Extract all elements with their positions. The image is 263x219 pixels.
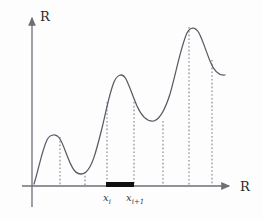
x-i-plus-1-label: xi+1 (126, 192, 144, 206)
dashed-drop-lines (60, 27, 212, 186)
function-partition-figure: R R xi xi+1 (0, 0, 263, 219)
interval-highlight-bar (106, 182, 134, 187)
x-i-subscript: i (109, 198, 111, 206)
y-axis-label: R (40, 9, 51, 24)
x-axis-label: R (240, 179, 251, 194)
function-curve (34, 28, 225, 184)
figure-canvas: R R xi xi+1 (0, 0, 263, 219)
x-i-plus-1-subscript: i+1 (132, 198, 145, 206)
x-i-label: xi (103, 192, 111, 206)
